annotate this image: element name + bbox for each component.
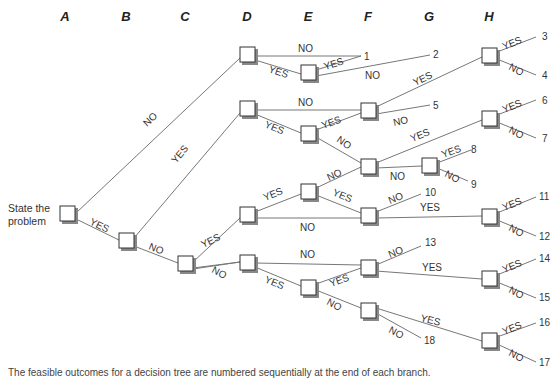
outcome-3: 3	[542, 31, 548, 42]
outcome-17: 17	[539, 357, 551, 368]
column-label-d: D	[242, 9, 252, 24]
label-d2-e2: YES	[263, 119, 286, 137]
outcome-13: 13	[425, 237, 437, 248]
label-c-d3: YES	[199, 231, 222, 250]
node-f3	[361, 208, 379, 226]
label-h2-out7: NO	[507, 124, 526, 141]
outcome-8: 8	[471, 144, 477, 155]
node-f2	[361, 159, 379, 177]
node-d1	[240, 47, 258, 65]
outcome-18: 18	[424, 335, 436, 346]
label-root-d1: NO	[141, 110, 160, 128]
edge-f1-h1	[376, 57, 482, 107]
label-f2-g1: NO	[390, 171, 405, 182]
edge-root-d1	[76, 58, 240, 213]
label-h4-out15: NO	[507, 284, 526, 301]
label-root-b: YES	[88, 216, 111, 235]
label-e4-f4: YES	[328, 272, 351, 289]
column-label-h: H	[484, 9, 494, 24]
label-e2-f1: YES	[320, 114, 343, 131]
edge-f1-out5	[376, 105, 430, 114]
column-label-e: E	[304, 9, 313, 24]
node-h1	[482, 48, 500, 66]
label-d4-f4: NO	[300, 249, 315, 260]
label-h2-out6: YES	[501, 97, 524, 115]
edge-b-d2	[134, 113, 240, 238]
node-root	[60, 206, 78, 224]
label-e1-out2: NO	[365, 70, 380, 81]
label-f3-out10: NO	[387, 190, 405, 206]
column-label-g: G	[424, 9, 434, 24]
label-d4-e4: YES	[263, 274, 286, 292]
column-label-c: C	[180, 9, 190, 24]
decision-nodes	[60, 47, 500, 351]
start-label-line2: problem	[8, 215, 46, 227]
node-d2	[240, 101, 258, 119]
outcome-11: 11	[539, 191, 550, 202]
outcome-12: 12	[539, 231, 551, 242]
label-h3-out12: NO	[507, 222, 526, 239]
label-d1-out1: NO	[298, 43, 313, 54]
label-f3-h3: YES	[420, 202, 440, 213]
label-b-c: NO	[147, 241, 165, 257]
outcome-16: 16	[539, 317, 551, 328]
outcome-10: 10	[425, 187, 437, 198]
node-h3	[482, 209, 500, 227]
column-label-b: B	[121, 9, 130, 24]
label-h5-out17: NO	[507, 347, 526, 364]
outcome-6: 6	[542, 95, 548, 106]
outcome-9: 9	[471, 179, 477, 190]
node-e2	[301, 126, 319, 144]
label-e2-f2: NO	[335, 134, 354, 152]
column-label-f: F	[364, 9, 373, 24]
label-h3-out11: YES	[501, 195, 524, 213]
node-b	[119, 233, 137, 251]
label-d2-f1: NO	[298, 97, 313, 108]
node-g1	[422, 158, 440, 176]
node-d3	[240, 207, 258, 225]
node-h5	[482, 333, 500, 351]
outcome-7: 7	[542, 133, 548, 144]
label-e3-f3: YES	[331, 187, 354, 205]
label-f5-out18: NO	[387, 324, 406, 341]
node-d4	[240, 255, 258, 273]
edge-f3-h3	[376, 216, 482, 218]
edge-d4-f4	[255, 263, 361, 265]
node-e4	[301, 280, 319, 298]
label-b-d2: YES	[169, 143, 191, 166]
outcome-15: 15	[539, 292, 551, 303]
outcome-2: 2	[433, 49, 439, 60]
label-f1-out5: NO	[392, 114, 409, 128]
node-c	[178, 256, 196, 274]
label-f4-h4: YES	[422, 262, 442, 273]
start-label-line1: State the	[8, 202, 50, 214]
label-e1-out1: YES	[322, 55, 345, 71]
label-f5-h5: YES	[420, 312, 442, 328]
label-d1-e1: YES	[267, 63, 290, 80]
label-g1-out9: NO	[443, 168, 462, 185]
label-e4-f5: NO	[325, 296, 344, 313]
edge-f2-h2	[376, 120, 482, 163]
node-f1	[361, 103, 379, 121]
outcome-14: 14	[539, 253, 551, 264]
label-h1-out4: NO	[507, 61, 526, 78]
column-label-a: A	[59, 9, 69, 24]
label-f2-h2: YES	[409, 126, 432, 144]
label-c-d4: NO	[210, 264, 229, 281]
node-h2	[482, 111, 500, 129]
edge-f2-g1	[376, 166, 422, 168]
label-d3-f3: NO	[300, 222, 315, 233]
node-e3	[301, 184, 319, 202]
label-f4-out13: NO	[387, 244, 405, 260]
label-h1-out3: YES	[501, 34, 524, 52]
column-headers: A B C D E F G H	[59, 9, 494, 24]
node-h4	[482, 271, 500, 289]
node-f4	[361, 260, 379, 278]
node-f5	[361, 303, 379, 321]
outcome-4: 4	[542, 70, 548, 81]
node-e1	[301, 65, 319, 83]
label-e3-f2: NO	[325, 166, 343, 182]
outcome-1: 1	[364, 51, 370, 62]
label-h4-out14: YES	[501, 257, 524, 275]
